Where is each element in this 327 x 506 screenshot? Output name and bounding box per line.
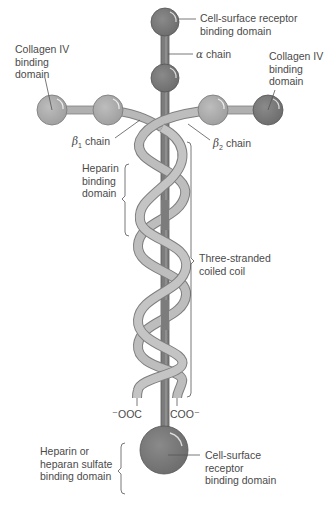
- label-line: Heparin or: [40, 445, 112, 458]
- label-line: binding domain: [200, 25, 297, 38]
- label-line: coiled coil: [199, 265, 271, 278]
- alpha-second-domain: [151, 64, 179, 92]
- label-line: binding domain: [40, 470, 112, 483]
- label-line: domain: [82, 187, 119, 200]
- label-line: Cell-surface receptor: [200, 12, 297, 25]
- label-text: chain: [82, 135, 110, 147]
- figure-caption-clipped: [8, 499, 124, 506]
- label-line: Three-stranded: [199, 252, 271, 265]
- label-heparin-binding: Heparin binding domain: [82, 162, 119, 200]
- beta1-inner-domain: [93, 95, 123, 125]
- label-line: binding: [15, 56, 69, 69]
- alpha-bottom-receptor-domain: [140, 426, 188, 474]
- label-collagen-right: Collagen IV binding domain: [269, 50, 323, 88]
- label-beta2-chain: β2 chain: [213, 137, 251, 155]
- label-line: binding domain: [205, 474, 276, 487]
- heparin-bracket: [122, 164, 129, 236]
- label-line: receptor: [205, 462, 276, 475]
- label-text: chain: [203, 48, 231, 60]
- label-coiled-coil: Three-stranded coiled coil: [199, 252, 271, 277]
- label-line: binding: [269, 63, 323, 76]
- label-collagen-left: Collagen IV binding domain: [15, 43, 69, 81]
- label-alpha-chain: α chain: [196, 48, 231, 61]
- label-line: heparan sulfate: [40, 458, 112, 471]
- label-heparan-sulfate-domain: Heparin or heparan sulfate binding domai…: [40, 445, 112, 483]
- label-line: domain: [269, 75, 323, 88]
- label-line: Collagen IV: [269, 50, 323, 63]
- label-beta1-chain: β1 chain: [72, 135, 110, 153]
- label-text: chain: [223, 137, 251, 149]
- label-line: binding: [82, 175, 119, 188]
- label-line: Cell-surface: [205, 449, 276, 462]
- label-bottom-receptor-domain: Cell-surface receptor binding domain: [205, 449, 276, 487]
- beta2-inner-domain: [198, 95, 228, 125]
- label-line: domain: [15, 68, 69, 81]
- heparan-sulfate-bracket: [118, 443, 125, 494]
- label-line: Collagen IV: [15, 43, 69, 56]
- label-line: Heparin: [82, 162, 119, 175]
- label-ooc-terminus: ⁻OOC: [112, 408, 142, 421]
- label-top-receptor-domain: Cell-surface receptor binding domain: [200, 12, 297, 37]
- label-coo-terminus: COO⁻: [170, 408, 200, 421]
- alpha-top-receptor-domain: [151, 8, 179, 36]
